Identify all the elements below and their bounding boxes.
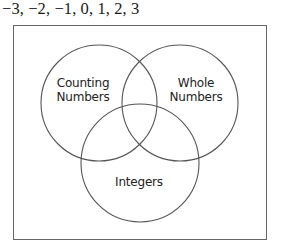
integers-label: Integers: [115, 175, 163, 189]
counting-numbers-label-line2: Numbers: [56, 90, 109, 104]
counting-numbers-label-line1: Counting: [56, 76, 109, 90]
counting-numbers-label: Counting Numbers: [56, 76, 109, 104]
whole-numbers-label: Whole Numbers: [169, 76, 222, 104]
whole-numbers-label-line1: Whole: [169, 76, 222, 90]
integers-circle: [81, 104, 199, 222]
integers-label-line1: Integers: [115, 175, 163, 189]
venn-diagram: [0, 0, 283, 248]
whole-numbers-label-line2: Numbers: [169, 90, 222, 104]
